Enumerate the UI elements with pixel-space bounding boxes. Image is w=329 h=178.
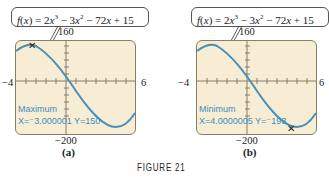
extremum-title: Minimum	[199, 104, 236, 114]
x-max-label: 6	[141, 77, 146, 88]
extremum-x: X=⁻3.000001	[18, 116, 72, 126]
svg-text:✕: ✕	[287, 123, 295, 134]
y-min-label: −200	[236, 135, 258, 146]
y-max-label: 160	[239, 26, 255, 37]
figure-label: FIGURE 21	[137, 162, 186, 173]
extremum-y: Y=150	[74, 116, 100, 126]
panel-caption: (b)	[243, 146, 256, 158]
graph-panel-b: f(x) = 2x3 − 3x2 − 72x + 15 160 ✕ Minimu…	[163, 0, 326, 160]
extremum-x: X=4.0000005	[199, 116, 253, 126]
extremum-y: Y=⁻193	[255, 116, 286, 126]
x-max-label: 6	[319, 77, 324, 88]
x-min-label: −4	[178, 77, 189, 88]
x-min-label: −4	[2, 77, 13, 88]
svg-text:✕: ✕	[28, 41, 36, 51]
extremum-title: Maximum	[18, 104, 57, 114]
y-max-label: 160	[58, 26, 74, 37]
y-min-label: −200	[55, 135, 77, 146]
graph-panel-a: f(x) = 2x3 − 3x2 − 72x + 15 160 ✕ Maximu…	[0, 0, 163, 160]
panel-caption: (a)	[62, 146, 75, 158]
calculator-screen: ✕ Maximum X=⁻3.000001 Y=150	[15, 40, 136, 135]
calculator-screen: ✕ Minimum X=4.0000005 Y=⁻193	[196, 40, 317, 135]
